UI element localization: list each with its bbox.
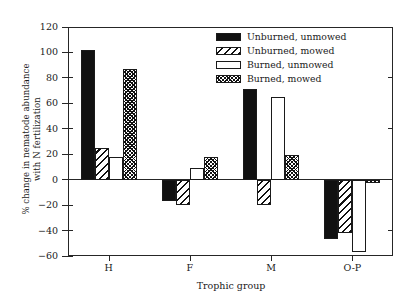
legend-label: Unburned, unmowed <box>247 32 346 42</box>
x-tick-label: F <box>170 262 210 273</box>
legend-item: Burned, unmowed <box>216 58 388 72</box>
y-tick-mark-inner <box>68 256 73 257</box>
bar <box>338 180 352 233</box>
y-tick-label: −20 <box>18 200 58 210</box>
y-tick-mark-inner <box>68 52 73 53</box>
bar <box>257 180 271 205</box>
y-tick-mark-right <box>388 128 393 129</box>
bar <box>190 168 204 179</box>
x-tick-mark <box>271 256 272 261</box>
y-tick-label: 80 <box>18 73 58 83</box>
x-tick-label: H <box>89 262 129 273</box>
y-tick-label: 40 <box>18 124 58 134</box>
y-tick-label: −40 <box>18 226 58 236</box>
legend-swatch-icon <box>216 47 241 55</box>
legend-swatch-icon <box>216 61 241 69</box>
x-axis-label: Trophic group <box>68 280 394 291</box>
y-tick-mark-inner <box>68 154 73 155</box>
y-tick-label: −60 <box>18 251 58 261</box>
bar <box>243 89 257 179</box>
y-tick-mark-inner <box>68 77 73 78</box>
x-tick-mark <box>352 256 353 261</box>
legend-item: Burned, mowed <box>216 72 388 86</box>
bar <box>204 157 218 180</box>
y-tick-label: 0 <box>18 175 58 185</box>
y-tick-mark-inner <box>68 205 73 206</box>
y-tick-mark-right <box>388 230 393 231</box>
bar <box>123 69 137 180</box>
bar <box>285 155 299 179</box>
y-tick-label: 100 <box>18 47 58 57</box>
chart-figure: % change in nematode abundance with N fe… <box>0 0 409 300</box>
legend: Unburned, unmowedUnburned, mowedBurned, … <box>216 30 388 86</box>
y-tick-label: 20 <box>18 149 58 159</box>
y-tick-label: 120 <box>18 22 58 32</box>
legend-swatch-icon <box>216 75 241 83</box>
y-axis-label-line1: % change in nematode abundance <box>21 63 31 214</box>
y-tick-label: 60 <box>18 98 58 108</box>
y-tick-mark-right <box>388 27 393 28</box>
legend-swatch-icon <box>216 33 241 41</box>
x-tick-mark <box>190 256 191 261</box>
y-tick-mark-inner <box>68 103 73 104</box>
legend-label: Burned, mowed <box>247 74 321 84</box>
x-tick-label: O-P <box>332 262 372 273</box>
bar <box>176 180 190 205</box>
bar <box>352 180 366 253</box>
legend-label: Burned, unmowed <box>247 60 333 70</box>
y-tick-mark-inner <box>68 128 73 129</box>
bar <box>81 50 95 180</box>
legend-item: Unburned, unmowed <box>216 30 388 44</box>
x-tick-label: M <box>251 262 291 273</box>
y-tick-mark-inner <box>68 230 73 231</box>
y-tick-mark-inner <box>68 27 73 28</box>
bar <box>109 157 123 180</box>
bar <box>162 180 176 202</box>
bar <box>366 180 380 184</box>
legend-item: Unburned, mowed <box>216 44 388 58</box>
y-tick-mark-right <box>388 77 393 78</box>
bar <box>324 180 338 240</box>
x-tick-mark <box>109 256 110 261</box>
bar <box>95 148 109 180</box>
bar <box>271 97 285 180</box>
legend-label: Unburned, mowed <box>247 46 334 56</box>
